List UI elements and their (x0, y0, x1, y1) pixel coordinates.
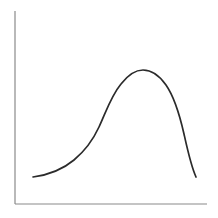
plot-area (0, 0, 218, 218)
figure-container (0, 0, 218, 218)
plot-background (0, 0, 218, 218)
